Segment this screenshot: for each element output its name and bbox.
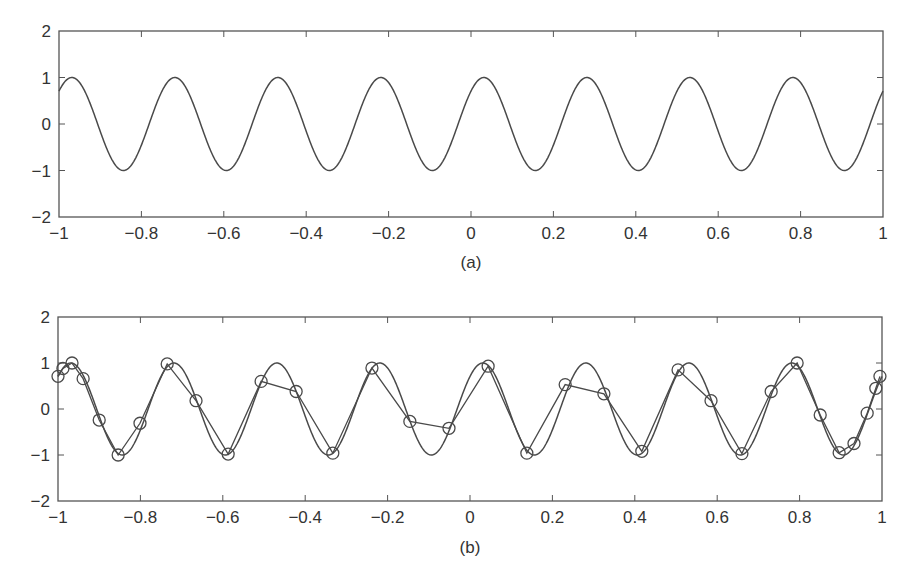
x-tick-label: 0.4 <box>624 224 648 243</box>
x-tick-label: 1 <box>877 508 886 527</box>
series-line-samples <box>58 363 880 455</box>
y-tick-label: 1 <box>42 69 51 88</box>
x-tick-label: 0.8 <box>789 224 813 243</box>
y-tick-label: 2 <box>41 308 50 327</box>
y-tick-label: −2 <box>32 208 51 227</box>
panel-label: (b) <box>460 538 481 557</box>
figure: −1−0.8−0.6−0.4−0.200.20.40.60.81−2−1012(… <box>0 0 909 584</box>
x-tick-label: 0 <box>466 224 475 243</box>
y-tick-label: 0 <box>42 115 51 134</box>
x-tick-label: 0 <box>465 508 474 527</box>
x-tick-label: 0.2 <box>542 224 566 243</box>
x-tick-label: −0.6 <box>207 224 241 243</box>
x-tick-label: 1 <box>878 224 887 243</box>
x-tick-label: −0.2 <box>372 224 406 243</box>
y-tick-label: −1 <box>32 162 51 181</box>
x-tick-label: −0.8 <box>125 224 159 243</box>
x-tick-label: −1 <box>49 224 68 243</box>
y-tick-label: −1 <box>31 446 50 465</box>
y-tick-label: −2 <box>31 492 50 511</box>
x-tick-label: −1 <box>48 508 67 527</box>
panel-label: (a) <box>461 253 482 272</box>
x-tick-label: −0.4 <box>288 508 322 527</box>
y-tick-label: 0 <box>41 400 50 419</box>
series-line-continuous <box>58 363 882 455</box>
x-tick-label: −0.2 <box>371 508 405 527</box>
x-tick-label: −0.6 <box>206 508 240 527</box>
x-tick-label: 0.2 <box>541 508 565 527</box>
x-tick-label: 0.6 <box>706 224 730 243</box>
x-tick-label: 0.6 <box>705 508 729 527</box>
panel-b: −1−0.8−0.6−0.4−0.200.20.40.60.81−2−1012(… <box>31 308 887 557</box>
x-tick-label: 0.4 <box>623 508 647 527</box>
plot-frame <box>58 317 882 501</box>
panel-a: −1−0.8−0.6−0.4−0.200.20.40.60.81−2−1012(… <box>32 22 888 272</box>
y-tick-label: 1 <box>41 354 50 373</box>
x-tick-label: −0.4 <box>289 224 323 243</box>
x-tick-label: −0.8 <box>124 508 158 527</box>
plot-frame <box>59 31 883 217</box>
series-line-continuous <box>59 78 883 171</box>
y-tick-label: 2 <box>42 22 51 41</box>
x-tick-label: 0.8 <box>788 508 812 527</box>
